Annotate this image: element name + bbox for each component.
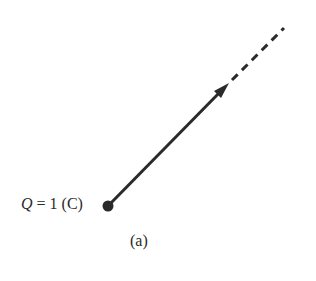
solid-field-line	[108, 90, 222, 206]
charge-label: Q = 1 (C)	[21, 195, 83, 213]
field-line-drawing	[0, 0, 316, 281]
charge-symbol: Q	[21, 195, 33, 212]
dashed-field-line	[232, 28, 284, 80]
charge-value: = 1 (C)	[33, 195, 83, 212]
figure-caption: (a)	[130, 232, 148, 250]
diagram-canvas: Q = 1 (C) (a)	[0, 0, 316, 281]
point-charge-dot	[103, 201, 114, 212]
